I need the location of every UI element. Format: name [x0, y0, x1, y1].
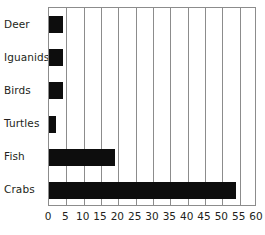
bar-crabs	[49, 182, 236, 199]
gridline-45	[205, 8, 206, 205]
category-label-birds: Birds	[4, 83, 31, 97]
gridline-30	[153, 8, 154, 205]
x-tick-label-45: 45	[197, 209, 210, 223]
category-label-crabs: Crabs	[4, 182, 35, 196]
category-label-fish: Fish	[4, 149, 25, 163]
bar-iguanids	[49, 49, 63, 66]
x-tick-label-20: 20	[111, 209, 124, 223]
x-tick-label-15: 15	[93, 209, 106, 223]
gridline-5	[66, 8, 67, 205]
gridline-50	[222, 8, 223, 205]
x-tick-label-5: 5	[62, 209, 69, 223]
plot-area	[48, 7, 256, 206]
x-axis-tick-labels: 051015202530354045505560	[0, 209, 265, 229]
category-label-deer: Deer	[4, 17, 30, 31]
x-tick-label-25: 25	[128, 209, 141, 223]
category-axis-labels: DeerIguanidsBirdsTurtlesFishCrabs	[0, 7, 46, 206]
gridline-10	[84, 8, 85, 205]
gridline-20	[118, 8, 119, 205]
x-tick-label-60: 60	[249, 209, 262, 223]
category-label-turtles: Turtles	[4, 116, 39, 130]
bar-deer	[49, 16, 63, 33]
x-tick-label-35: 35	[163, 209, 176, 223]
category-label-iguanids: Iguanids	[4, 50, 49, 64]
gridline-40	[188, 8, 189, 205]
bar-turtles	[49, 116, 56, 133]
gridline-25	[136, 8, 137, 205]
bar-birds	[49, 82, 63, 99]
gridline-55	[240, 8, 241, 205]
bar-chart: DeerIguanidsBirdsTurtlesFishCrabs 051015…	[0, 0, 265, 235]
x-tick-label-50: 50	[215, 209, 228, 223]
x-tick-label-30: 30	[145, 209, 158, 223]
x-tick-label-40: 40	[180, 209, 193, 223]
x-tick-label-55: 55	[232, 209, 245, 223]
x-tick-label-10: 10	[76, 209, 89, 223]
gridline-15	[101, 8, 102, 205]
bar-fish	[49, 149, 115, 166]
gridline-35	[170, 8, 171, 205]
x-tick-label-0: 0	[45, 209, 52, 223]
